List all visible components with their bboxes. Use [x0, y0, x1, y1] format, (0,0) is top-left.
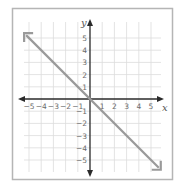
y-tick-label: −1 [76, 107, 87, 116]
y-tick-label: −2 [76, 119, 87, 128]
y-tick-label: −4 [76, 144, 87, 153]
x-tick-label: 5 [149, 102, 154, 111]
x-tick-label: −3 [48, 102, 59, 111]
x-tick-label: 4 [136, 102, 141, 111]
y-tick-label: −3 [76, 132, 87, 141]
y-axis-label: y [80, 17, 87, 28]
x-tick-label: −5 [23, 102, 34, 111]
y-tick-label: −5 [76, 156, 87, 165]
y-tick-label: 4 [82, 46, 87, 55]
y-tick-label: 5 [82, 34, 87, 43]
x-tick-label: −4 [36, 102, 47, 111]
y-tick-label: 2 [82, 71, 87, 80]
graph-frame [13, 9, 173, 180]
x-tick-label: 2 [112, 102, 117, 111]
y-tick-label: 3 [82, 58, 87, 67]
coordinate-plane: −5−4−3−2−11234554321−1−2−3−4−5 x y [0, 0, 184, 185]
x-axis-label: x [162, 102, 168, 113]
x-tick-label: 3 [124, 102, 129, 111]
x-tick-label: −2 [60, 102, 71, 111]
